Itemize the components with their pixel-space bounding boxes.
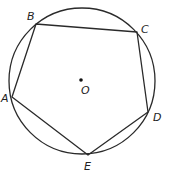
label-C: C [141, 23, 149, 36]
label-B: B [27, 10, 35, 23]
label-A: A [0, 92, 9, 105]
center-point-O [79, 78, 83, 82]
label-E: E [84, 160, 91, 173]
label-O: O [81, 84, 90, 97]
geometry-diagram: A B C D E O [0, 0, 179, 177]
label-D: D [153, 111, 161, 124]
